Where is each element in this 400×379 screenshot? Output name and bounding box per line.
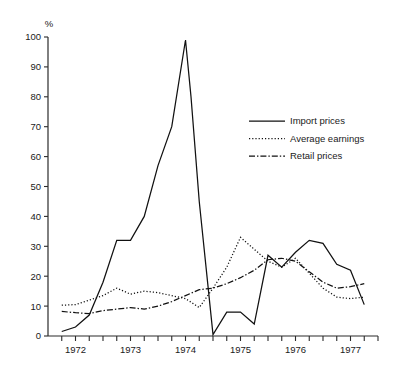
x-tick-label: 1977: [340, 344, 361, 355]
y-tick-label: 40: [30, 211, 41, 222]
y-tick-label: 70: [30, 121, 41, 132]
series-line-average-earnings: [62, 237, 365, 307]
y-axis-group: 0102030405060708090100 %: [25, 18, 54, 341]
series-line-retail-prices: [62, 258, 365, 313]
y-tick-label: 50: [30, 181, 41, 192]
legend-label-import-prices: Import prices: [290, 115, 345, 126]
y-axis-ticks: 0102030405060708090100: [25, 31, 48, 341]
legend-label-average-earnings: Average earnings: [290, 133, 365, 144]
chart-container: 0102030405060708090100 % 197219731974197…: [0, 0, 400, 379]
x-tick-label: 1972: [65, 344, 86, 355]
x-axis-ticks: [62, 336, 378, 341]
y-axis-unit-label: %: [45, 18, 54, 29]
y-tick-label: 60: [30, 151, 41, 162]
series-lines: [62, 40, 365, 335]
x-tick-label: 1976: [285, 344, 306, 355]
legend-label-retail-prices: Retail prices: [290, 150, 343, 161]
y-tick-label: 0: [36, 330, 41, 341]
y-tick-label: 30: [30, 241, 41, 252]
y-tick-label: 10: [30, 301, 41, 312]
chart-legend: Import pricesAverage earningsRetail pric…: [249, 115, 365, 161]
x-tick-label: 1974: [175, 344, 196, 355]
y-tick-label: 80: [30, 91, 41, 102]
y-tick-label: 20: [30, 271, 41, 282]
line-chart: 0102030405060708090100 % 197219731974197…: [0, 0, 400, 379]
series-line-import-prices: [62, 40, 365, 335]
x-axis-group: 197219731974197519761977: [48, 336, 378, 355]
x-axis-tick-labels: 197219731974197519761977: [65, 344, 361, 355]
x-tick-label: 1973: [120, 344, 141, 355]
y-tick-label: 100: [25, 31, 41, 42]
x-tick-label: 1975: [230, 344, 251, 355]
y-tick-label: 90: [30, 61, 41, 72]
